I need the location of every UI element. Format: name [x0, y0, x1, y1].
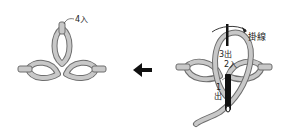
- arrow-left-icon: [133, 63, 152, 77]
- petal-left: [18, 63, 58, 78]
- petal-right: [66, 63, 106, 78]
- label-step1-num: 1: [216, 83, 221, 92]
- label-step3: 3出: [219, 49, 232, 59]
- needle-top: [226, 24, 229, 46]
- leader-line: [64, 19, 74, 24]
- label-wrap-thread: 掛線: [248, 31, 266, 42]
- leader-step1: [222, 78, 225, 80]
- stitch-in-progress: 掛線 3出 2入 1 出: [176, 24, 272, 124]
- label-step2: 2入: [224, 60, 237, 69]
- label-step1-char: 出: [214, 91, 222, 101]
- finished-petals: 4入: [18, 15, 106, 78]
- petal-top: [55, 22, 70, 64]
- label-step4: 4入: [75, 15, 88, 24]
- needle-icon: [225, 74, 231, 112]
- stitch-diagram: 4入 掛線 3出: [0, 0, 284, 136]
